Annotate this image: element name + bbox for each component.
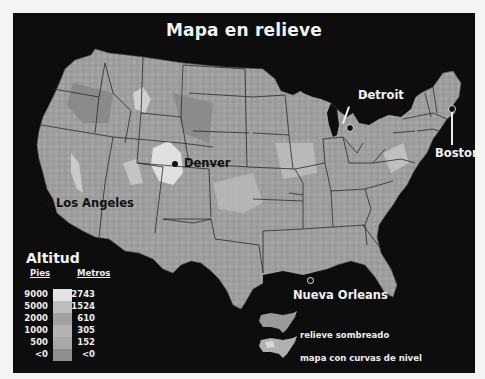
city-label-denver: Denver [184, 156, 231, 170]
legend-meters-value: 152 [65, 337, 95, 347]
contour-map-thumbnail-icon [259, 336, 297, 358]
legend-meters-header: Metros [77, 268, 110, 278]
city-marker-denver [172, 161, 178, 167]
city-label-new-orleans: Nueva Orleans [293, 288, 388, 302]
legend-meters-value: 1524 [65, 301, 95, 311]
legend-feet-value: 500 [18, 337, 48, 347]
legend-feet-header: Pies [30, 268, 50, 278]
legend-title: Altitud [26, 250, 80, 266]
legend-meters-value: <0 [65, 349, 95, 359]
shaded-relief-thumbnail-icon [259, 311, 297, 333]
map-title: Mapa en relieve [13, 20, 475, 40]
legend-feet-value: <0 [18, 349, 48, 359]
legend-meters-value: 610 [65, 313, 95, 323]
map-panel: Mapa en relieve Detroit Boston Denver Lo… [13, 13, 475, 373]
city-label-boston: Boston [435, 146, 475, 160]
key-label-shaded-relief: relieve sombreado [300, 330, 389, 340]
city-marker-detroit [346, 124, 354, 132]
city-label-los-angeles: Los Angeles [56, 196, 134, 210]
legend-feet-value: 9000 [18, 289, 48, 299]
legend-meters-value: 305 [65, 325, 95, 335]
city-label-detroit: Detroit [358, 88, 404, 102]
boston-leader-line [451, 112, 453, 145]
legend-feet-value: 5000 [18, 301, 48, 311]
legend-feet-value: 2000 [18, 313, 48, 323]
city-marker-los-angeles [46, 201, 52, 207]
legend-meters-value: 2743 [65, 289, 95, 299]
city-marker-new-orleans [307, 277, 314, 284]
key-label-contour-map: mapa con curvas de nivel [300, 353, 422, 363]
legend-feet-value: 1000 [18, 325, 48, 335]
